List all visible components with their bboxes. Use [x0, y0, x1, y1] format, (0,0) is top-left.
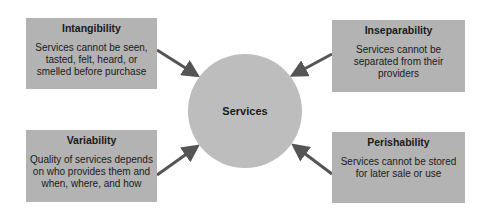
- arrow-perishability: [296, 147, 332, 174]
- box-description: Services cannot be stored for later sale…: [332, 156, 465, 180]
- box-title: Intangibility: [26, 22, 157, 34]
- inseparability-box: Inseparability Services cannot be separa…: [332, 20, 465, 92]
- box-title: Perishability: [332, 136, 465, 148]
- box-title: Inseparability: [332, 24, 465, 36]
- box-description: Services cannot be separated from their …: [332, 44, 465, 80]
- services-label: Services: [222, 105, 267, 117]
- box-description: Quality of services depends on who provi…: [26, 154, 157, 190]
- intangibility-box: Intangibility Services cannot be seen, t…: [26, 18, 157, 89]
- box-title: Variability: [26, 134, 157, 146]
- arrow-intangibility: [157, 50, 195, 74]
- arrow-variability: [157, 148, 195, 175]
- perishability-box: Perishability Services cannot be stored …: [332, 132, 465, 203]
- variability-box: Variability Quality of services depends …: [26, 130, 157, 202]
- arrow-inseparability: [295, 54, 332, 74]
- box-description: Services cannot be seen, tasted, felt, h…: [26, 42, 157, 78]
- services-circle: Services: [188, 54, 302, 168]
